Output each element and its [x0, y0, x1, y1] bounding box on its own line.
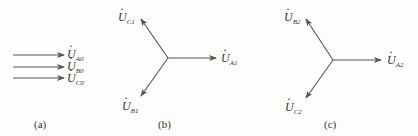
label-u-a1: UA1 [221, 52, 237, 67]
negative-sequence-arrows [306, 19, 381, 98]
zero-sequence-arrows [13, 55, 64, 78]
label-u-b2: UB2 [284, 11, 300, 26]
label-u-c1: UC1 [118, 11, 135, 26]
arrow-b2 [306, 19, 333, 60]
label-u-a2: UA2 [387, 54, 403, 69]
arrow-c2 [306, 60, 333, 98]
label-u-c2: UC2 [285, 101, 302, 116]
phasor-arrows [0, 0, 418, 136]
arrow-b1 [141, 58, 168, 96]
label-u-c0: UC0 [67, 72, 84, 87]
label-u-b1: UB1 [122, 100, 138, 115]
phasor-diagram: UA0 UB0 UC0 (a) UA1 UB1 UC1 (b) UA2 UB2 … [0, 0, 418, 136]
caption-c: (c) [324, 118, 336, 130]
caption-b: (b) [158, 118, 171, 130]
arrow-c1 [141, 19, 168, 58]
caption-a: (a) [34, 118, 46, 130]
positive-sequence-arrows [141, 19, 216, 96]
